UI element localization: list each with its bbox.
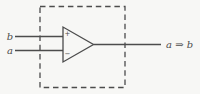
input-label-bottom: a [7,45,13,56]
minus-sign: − [65,50,71,58]
input-label-top: b [7,31,13,42]
plus-sign: + [65,30,71,38]
diagram-canvas: b a + − a ⇒ b [0,0,200,94]
output-label: a ⇒ b [166,39,193,50]
comparator-diagram: b a + − a ⇒ b [0,0,200,94]
